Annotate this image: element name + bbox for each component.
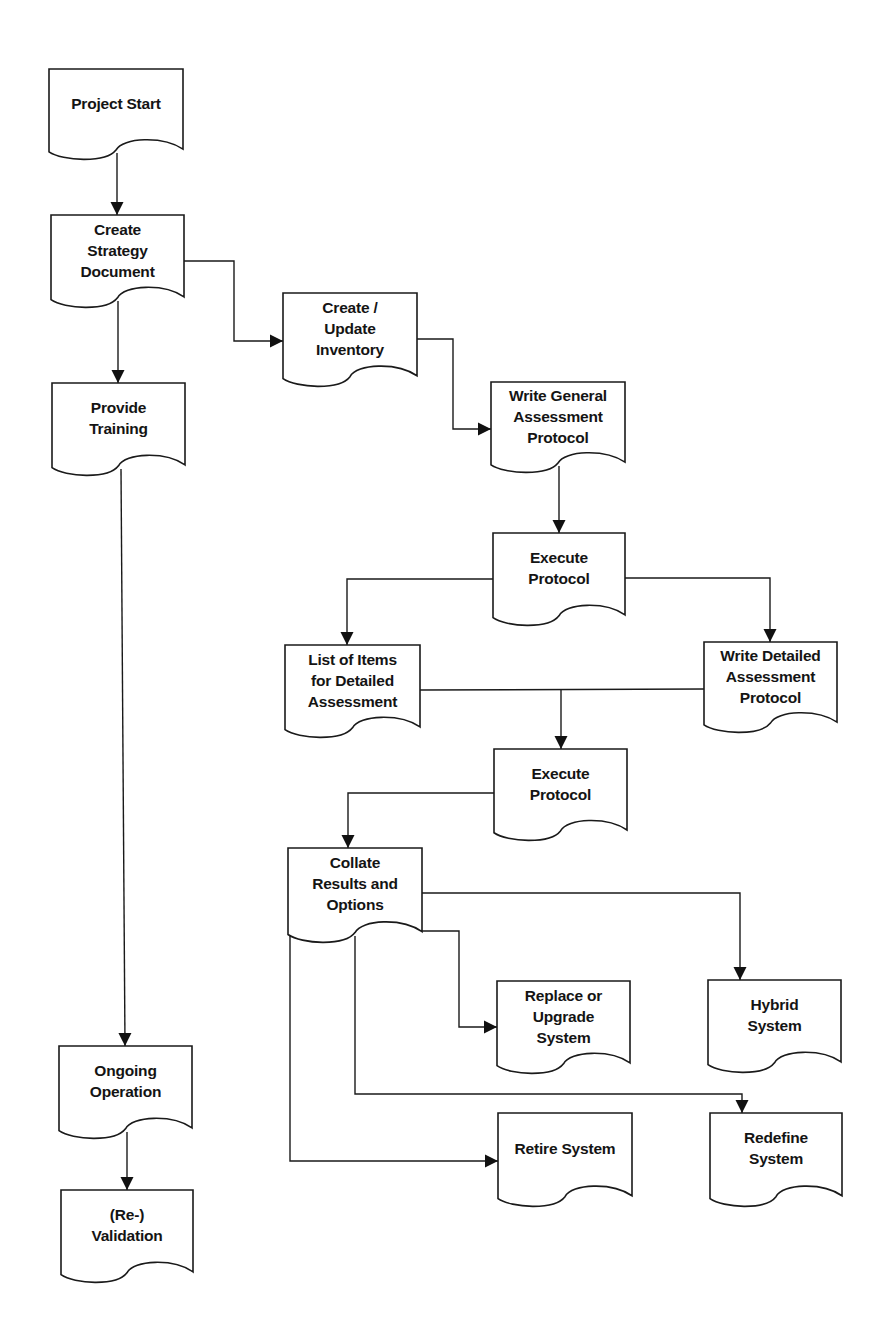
arrowhead-icon (121, 1177, 134, 1190)
arrowhead-icon (118, 1033, 131, 1046)
arrowhead-icon (734, 967, 747, 980)
connector-provide-training-to-ongoing-operation (121, 469, 125, 1046)
node-retire-system[interactable]: Retire System (498, 1115, 632, 1182)
arrowhead-icon (555, 736, 568, 749)
arrowhead-icon (764, 629, 777, 642)
node-ongoing-operation[interactable]: Ongoing Operation (59, 1048, 192, 1114)
node-project-start[interactable]: Project Start (49, 71, 183, 136)
node-re-validation[interactable]: (Re-) Validation (61, 1192, 193, 1258)
arrowhead-icon (342, 835, 355, 848)
node-execute-protocol-1[interactable]: Execute Protocol (493, 535, 625, 601)
arrowhead-icon (553, 520, 566, 533)
node-write-detailed-assessment-protocol[interactable]: Write Detailed Assessment Protocol (704, 644, 837, 709)
node-hybrid-system[interactable]: Hybrid System (708, 982, 841, 1048)
arrowhead-icon (111, 202, 124, 215)
connector-create-update-inventory-to-write-general-assessment-protocol (417, 339, 491, 429)
node-execute-protocol-2[interactable]: Execute Protocol (494, 751, 627, 817)
connector-collate-results-and-options-to-hybrid-system (422, 893, 740, 980)
arrowhead-icon (485, 1155, 498, 1168)
arrowhead-icon (270, 335, 283, 348)
node-replace-or-upgrade-system[interactable]: Replace or Upgrade System (497, 983, 630, 1049)
connector-execute-protocol-1-to-write-detailed-assessment-protocol (625, 578, 770, 642)
arrowhead-icon (484, 1021, 497, 1034)
connector-execute-protocol-1-to-list-of-items-for-detailed-assessment (347, 579, 493, 645)
node-redefine-system[interactable]: Redefine System (710, 1115, 842, 1182)
connector-collate-results-and-options-to-replace-or-upgrade-system (422, 931, 497, 1027)
connectors-layer (111, 153, 777, 1190)
connector-collate-results-and-options-to-retire-system (290, 935, 498, 1161)
node-collate-results-and-options[interactable]: Collate Results and Options (288, 850, 422, 918)
connector-create-strategy-document-to-create-update-inventory (184, 261, 283, 341)
node-create-strategy-document[interactable]: Create Strategy Document (51, 217, 184, 283)
node-provide-training[interactable]: Provide Training (52, 385, 185, 451)
node-write-general-assessment-protocol[interactable]: Write General Assessment Protocol (491, 384, 625, 449)
arrowhead-icon (341, 632, 354, 645)
arrowhead-icon (478, 423, 491, 436)
node-create-update-inventory[interactable]: Create / Update Inventory (283, 295, 417, 362)
arrowhead-icon (736, 1100, 749, 1113)
arrowhead-icon (112, 370, 125, 383)
connector-list-of-items-for-detailed-assessment-to-write-detailed-assessment-protocol (420, 689, 704, 690)
connector-execute-protocol-2-to-collate-results-and-options (348, 793, 494, 848)
node-list-of-items-for-detailed-assessment[interactable]: List of Items for Detailed Assessment (285, 647, 420, 713)
